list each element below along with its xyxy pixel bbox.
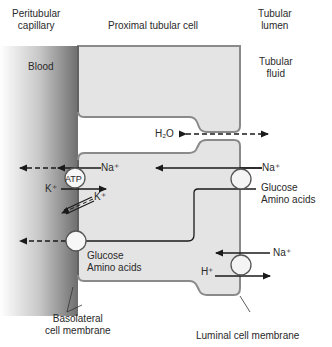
glucose-basolateral-label: Glucose Amino acids bbox=[87, 250, 141, 274]
label-line: Glucose bbox=[261, 182, 315, 194]
h-exchanger-label: H⁺ bbox=[201, 266, 213, 278]
glucose-lumen-label: Glucose Amino acids bbox=[261, 182, 315, 206]
label-line: fluid bbox=[259, 68, 293, 80]
glucose-transporter-basolateral bbox=[66, 231, 86, 251]
label-line: capillary bbox=[12, 20, 60, 32]
label-line: cell membrane bbox=[45, 325, 111, 337]
na-h-exchanger bbox=[231, 255, 251, 275]
k-in-label: K⁺ bbox=[45, 183, 57, 195]
na-exchanger-label: Na⁺ bbox=[273, 247, 291, 259]
h2o-label: H₂O bbox=[155, 128, 174, 140]
tubular-fluid-label: Tubular fluid bbox=[259, 56, 293, 80]
label-line: Amino acids bbox=[261, 194, 315, 206]
label-line: Glucose bbox=[87, 250, 141, 262]
blood-label: Blood bbox=[28, 61, 54, 73]
na-pump-label: Na⁺ bbox=[101, 162, 119, 174]
label-line: Basolateral bbox=[45, 313, 111, 325]
label-line: lumen bbox=[258, 20, 292, 32]
label-line: Tubular bbox=[258, 8, 292, 20]
label-line: Peritubular bbox=[12, 8, 60, 20]
peritubular-capillary-label: Peritubular capillary bbox=[12, 8, 60, 32]
na-lumen-label: Na⁺ bbox=[262, 162, 280, 174]
proximal-tubular-cell-label: Proximal tubular cell bbox=[108, 20, 198, 32]
atp-label: ATP bbox=[65, 173, 82, 185]
upper-cell bbox=[78, 46, 240, 132]
tubular-lumen-label: Tubular lumen bbox=[258, 8, 292, 32]
basolateral-membrane-label: Basolateral cell membrane bbox=[45, 313, 111, 337]
diagram-canvas bbox=[0, 0, 332, 347]
luminal-membrane-label: Luminal cell membrane bbox=[196, 330, 299, 342]
label-line: Tubular bbox=[259, 56, 293, 68]
k-leak-label: K⁺ bbox=[94, 191, 106, 203]
glucose-cotransporter-luminal bbox=[231, 169, 251, 189]
luminal-pointer bbox=[240, 296, 250, 312]
label-line: Amino acids bbox=[87, 262, 141, 274]
